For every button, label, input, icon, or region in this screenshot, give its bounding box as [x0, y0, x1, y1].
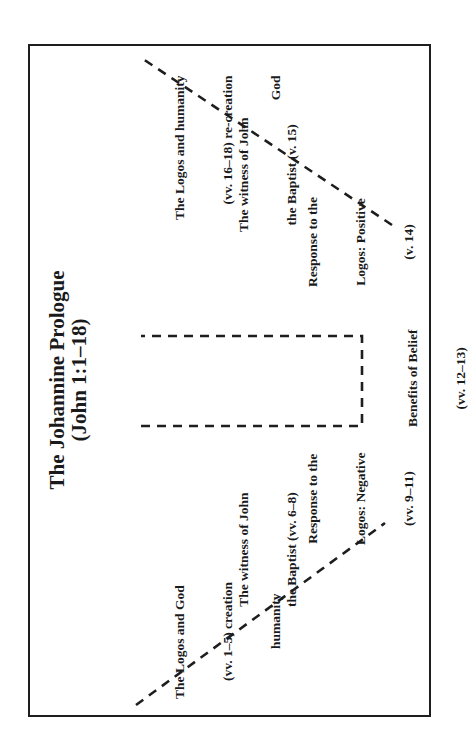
- label-line: The Logos and God: [172, 582, 188, 699]
- label-line: Benefits of Belief: [405, 330, 421, 427]
- title-line-2: (John 1:1–18): [68, 230, 90, 530]
- label-line: (vv. 9–11): [401, 452, 417, 545]
- label-line: Response to the: [305, 452, 321, 545]
- label-logos-and-humanity: The Logos and humanity (vv. 16–18) re-cr…: [140, 76, 316, 220]
- label-line: God: [268, 76, 284, 220]
- label-benefits-of-belief: Benefits of Belief (vv. 12–13): [373, 330, 473, 427]
- label-line: Logos: Positive: [353, 197, 369, 287]
- label-line: (vv. 16–18) re-creation: [220, 76, 236, 220]
- label-line: The Logos and humanity: [172, 76, 188, 220]
- chiasm-canvas: The Johannine Prologue (John 1:1–18) The…: [28, 44, 431, 717]
- diagram-title: The Johannine Prologue (John 1:1–18): [46, 230, 90, 530]
- center-bracket-dashed-line: [141, 336, 362, 426]
- label-line: The witness of John: [236, 492, 252, 607]
- label-line: (v. 14): [401, 197, 417, 287]
- diagram-frame: The Johannine Prologue (John 1:1–18) The…: [28, 44, 431, 717]
- label-line: Logos: Negative: [353, 452, 369, 545]
- label-line: (vv. 12–13): [453, 330, 469, 427]
- label-response-negative: Response to the Logos: Negative (vv. 9–1…: [273, 452, 449, 545]
- title-line-1: The Johannine Prologue: [46, 230, 68, 530]
